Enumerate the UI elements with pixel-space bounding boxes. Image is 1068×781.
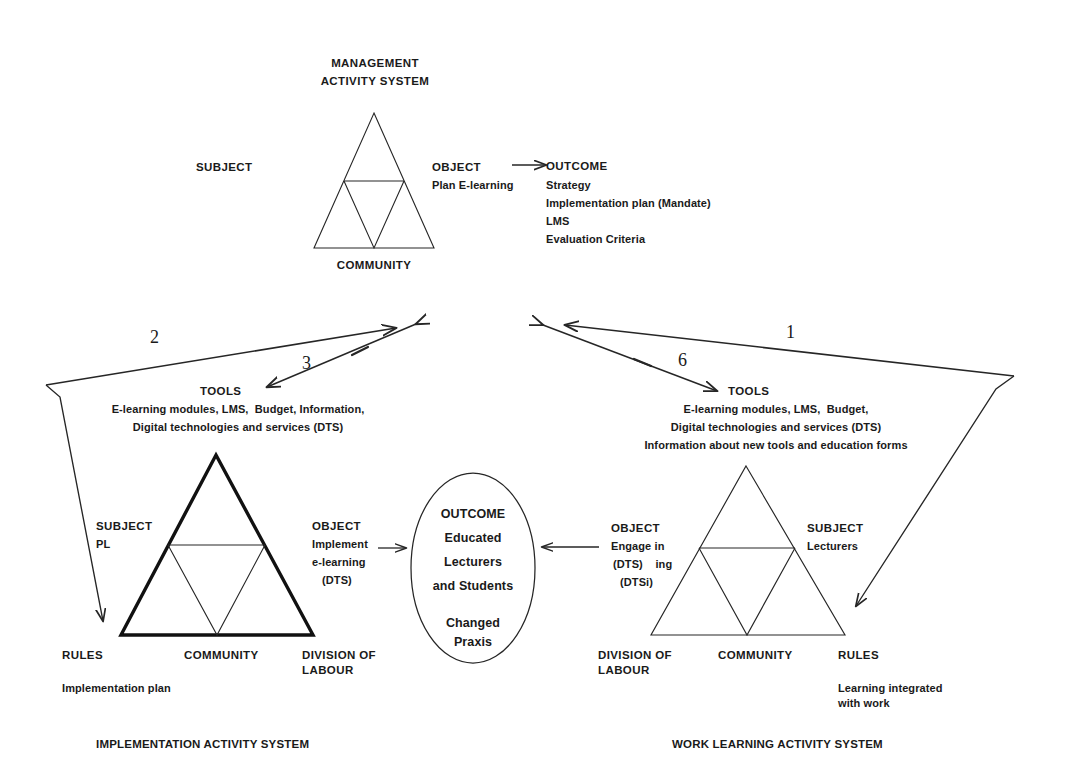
- work-learning-community-label: COMMUNITY: [718, 648, 793, 663]
- management-subject-label: SUBJECT: [196, 160, 252, 175]
- work-learning-rules-value: Learning integrated with work: [838, 681, 943, 710]
- outcome-oval-line-1: Lecturers: [413, 553, 533, 572]
- arrow-label-1: 1: [786, 321, 795, 345]
- management-outcome-item-1: Implementation plan (Mandate): [546, 196, 711, 211]
- management-outcome-item-3: Evaluation Criteria: [546, 232, 645, 247]
- work-learning-division-label: DIVISION OF LABOUR: [598, 648, 672, 678]
- implementation-object-line-0: Implement: [312, 537, 368, 552]
- management-title-line1: MANAGEMENT: [285, 56, 465, 71]
- implementation-object-line-2: (DTS): [322, 573, 352, 588]
- implementation-object-label: OBJECT: [312, 519, 361, 534]
- management-object-label: OBJECT: [432, 160, 481, 175]
- management-community-label: COMMUNITY: [319, 258, 429, 273]
- work-learning-subject-value: Lecturers: [807, 539, 858, 554]
- implementation-division-label: DIVISION OF LABOUR: [302, 648, 376, 678]
- management-outcome-item-0: Strategy: [546, 178, 591, 193]
- work-learning-object-line-2: (DTSi): [620, 575, 653, 590]
- work-learning-object-line-1: (DTS) ing: [613, 557, 672, 572]
- implementation-rules-value: Implementation plan: [62, 681, 171, 696]
- implementation-community-label: COMMUNITY: [184, 648, 259, 663]
- implementation-subject-label: SUBJECT: [96, 519, 152, 534]
- implementation-tools-label: TOOLS: [200, 384, 241, 399]
- arrow-6-midtick: [634, 359, 651, 366]
- arrow-label-6: 6: [678, 349, 687, 373]
- management-object-value: Plan E-learning: [432, 178, 514, 193]
- work-learning-tools-line-2: Information about new tools and educatio…: [566, 438, 986, 453]
- arrow-label-2: 2: [150, 326, 159, 350]
- implementation-system-caption: IMPLEMENTATION ACTIVITY SYSTEM: [96, 737, 309, 752]
- outcome-oval-heading: OUTCOME: [413, 505, 533, 524]
- work-learning-tools-label: TOOLS: [728, 384, 769, 399]
- arrow-6-line: [543, 325, 717, 391]
- work-learning-tools-line-0: E-learning modules, LMS, Budget,: [566, 402, 986, 417]
- diagram-edges: [0, 0, 1068, 781]
- management-outcome-item-2: LMS: [546, 214, 570, 229]
- management-triangle: [314, 113, 434, 248]
- implementation-rules-label: RULES: [62, 648, 103, 663]
- implementation-tools-line-1: Digital technologies and services (DTS): [48, 420, 428, 435]
- work-learning-object-line-0: Engage in: [611, 539, 664, 554]
- implementation-tools-line-0: E-learning modules, LMS, Budget, Informa…: [48, 402, 428, 417]
- arrow-label-3: 3: [302, 352, 311, 376]
- arrow-2-line: [46, 328, 396, 385]
- work-learning-tools-line-1: Digital technologies and services (DTS): [566, 420, 986, 435]
- management-title-line2: ACTIVITY SYSTEM: [285, 74, 465, 89]
- implementation-subject-value: PL: [96, 537, 110, 552]
- outcome-oval-line-2: and Students: [408, 577, 538, 596]
- management-outcome-heading: OUTCOME: [546, 159, 608, 174]
- arrow-3-line: [267, 324, 416, 387]
- outcome-oval-line-0: Educated: [413, 529, 533, 548]
- diagram-canvas: MANAGEMENT ACTIVITY SYSTEM SUBJECT COMMU…: [0, 0, 1068, 781]
- work-learning-object-label: OBJECT: [611, 521, 660, 536]
- work-learning-subject-label: SUBJECT: [807, 521, 863, 536]
- work-learning-rules-label: RULES: [838, 648, 879, 663]
- implementation-triangle-inner: [168, 545, 265, 635]
- implementation-object-line-1: e-learning: [312, 555, 366, 570]
- work-learning-system-caption: WORK LEARNING ACTIVITY SYSTEM: [672, 737, 883, 752]
- outcome-oval-footer: Changed Praxis: [413, 614, 533, 653]
